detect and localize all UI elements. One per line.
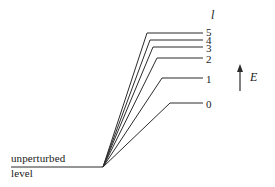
level-label-0: 0 [206,99,212,110]
level-label-1: 1 [206,74,212,85]
arrow-head [237,64,243,72]
quantum-number-symbol: l [211,9,214,21]
split-levels-group [103,33,203,167]
energy-level-diagram: l E unperturbed level 543210 [0,0,275,187]
level-line-0 [103,103,203,167]
energy-axis-symbol: E [250,71,257,83]
level-line-2 [103,58,203,167]
energy-axis-arrow [237,64,243,91]
level-label-2: 2 [206,54,212,65]
baseline-caption-unperturbed: unperturbed [11,153,65,164]
baseline-caption-level: level [11,168,33,179]
level-line-5 [103,33,203,167]
